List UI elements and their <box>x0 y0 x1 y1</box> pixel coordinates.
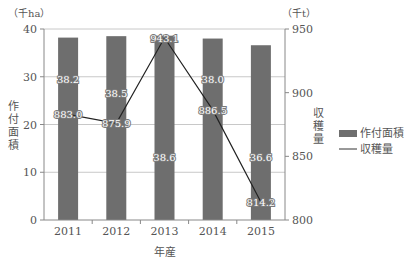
left-tick-label: 0 <box>30 214 37 227</box>
right-tick-label: 900 <box>292 87 313 100</box>
left-axis-unit: （千ha） <box>8 8 50 19</box>
legend-bar-swatch <box>339 130 357 137</box>
right-tick-label: 800 <box>292 214 313 227</box>
left-tick-label: 20 <box>23 119 37 132</box>
legend-line-label: 収穫量 <box>360 143 393 156</box>
left-axis-title: 作付面積 <box>8 100 19 152</box>
right-axis-title: 収穫量 <box>313 107 324 146</box>
line-value-label: 886.5 <box>198 105 227 116</box>
x-tick-label: 2014 <box>199 225 227 238</box>
x-tick-label: 2011 <box>54 225 82 238</box>
x-tick-label: 2013 <box>151 225 179 238</box>
bar-value-label: 38.0 <box>202 74 224 85</box>
x-tick-label: 2015 <box>247 225 275 238</box>
line-value-label: 814.2 <box>247 197 276 208</box>
bar <box>251 45 271 220</box>
legend-bar-label: 作付面積 <box>360 126 404 140</box>
left-tick-label: 40 <box>23 23 37 36</box>
line-value-label: 875.9 <box>102 118 131 129</box>
bar-value-label: 38.5 <box>105 88 127 99</box>
right-tick-label: 850 <box>292 150 313 163</box>
bar <box>58 38 78 220</box>
bar-value-label: 36.6 <box>250 152 272 163</box>
left-tick-label: 10 <box>23 166 37 179</box>
bar-value-label: 38.2 <box>57 74 79 85</box>
bar-value-label: 38.6 <box>153 152 175 163</box>
left-tick-label: 30 <box>23 71 37 84</box>
x-tick-label: 2012 <box>102 225 130 238</box>
right-axis-unit: （千t） <box>282 8 316 19</box>
line-value-label: 883.0 <box>54 109 83 120</box>
bars <box>58 36 271 220</box>
legend: 作付面積 収穫量 <box>339 126 404 156</box>
chart: 0102030408008509009502011201220132014201… <box>0 0 404 263</box>
x-axis-title: 年産 <box>154 245 176 259</box>
line-value-label: 943.1 <box>150 33 179 44</box>
bar <box>203 39 223 220</box>
bar <box>155 36 175 220</box>
right-tick-label: 950 <box>292 23 313 36</box>
